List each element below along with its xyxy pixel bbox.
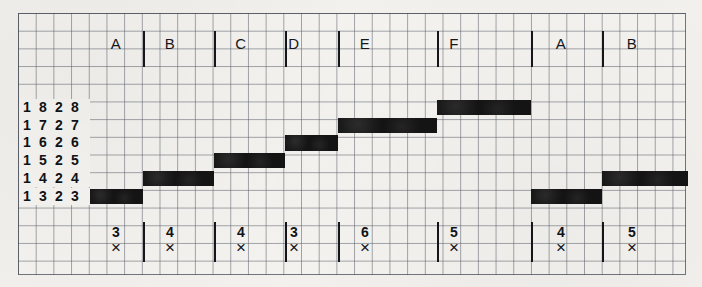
header-letter-3: D: [279, 35, 309, 52]
footer-cell-2: 4×: [226, 225, 256, 256]
header-divider-2: [285, 31, 287, 67]
footer-divider-1: [214, 222, 216, 262]
row-label-digit: 1: [19, 117, 35, 135]
row-label-digit: 5: [35, 152, 51, 170]
footer-x-mark-icon: ×: [101, 240, 131, 256]
row-label-3: 1525: [19, 152, 90, 170]
row-label-digit: 1: [19, 152, 35, 170]
row-label-digit: 1: [19, 134, 35, 152]
row-label-digit: 2: [51, 134, 67, 152]
footer-x-mark-icon: ×: [439, 240, 469, 256]
footer-x-mark-icon: ×: [279, 240, 309, 256]
header-divider-4: [437, 31, 439, 67]
row-label-digit: 6: [35, 134, 51, 152]
bar-B-4: [143, 171, 214, 186]
header-letter-2: C: [226, 35, 256, 52]
row-label-digit: 4: [67, 170, 83, 188]
graph-paper-chart: ABCDEFAB 182817271626152514241323 3×4×4×…: [0, 0, 702, 287]
row-label-digit: 5: [67, 152, 83, 170]
bar-E-7: [338, 118, 437, 133]
header-divider-0: [143, 31, 145, 67]
row-label-digit: 7: [35, 117, 51, 135]
header-divider-3: [338, 31, 340, 67]
footer-cell-3: 3×: [279, 225, 309, 256]
header-divider-5: [531, 31, 533, 67]
footer-x-mark-icon: ×: [546, 240, 576, 256]
header-divider-6: [602, 31, 604, 67]
row-label-digit: 2: [51, 170, 67, 188]
header-letter-0: A: [101, 35, 131, 52]
row-label-digit: 1: [19, 188, 35, 206]
footer-divider-5: [531, 222, 533, 262]
row-label-5: 1323: [19, 188, 90, 206]
bar-A-3: [531, 189, 602, 204]
row-label-0: 1828: [19, 99, 90, 117]
footer-divider-6: [602, 222, 604, 262]
row-label-4: 1424: [19, 170, 90, 188]
footer-x-mark-icon: ×: [617, 240, 647, 256]
row-label-digit: 1: [19, 170, 35, 188]
footer-cell-0: 3×: [101, 225, 131, 256]
row-label-digit: 2: [51, 152, 67, 170]
footer-x-mark-icon: ×: [155, 240, 185, 256]
row-label-digit: 4: [35, 170, 51, 188]
footer-x-mark-icon: ×: [350, 240, 380, 256]
row-label-digit: 3: [67, 188, 83, 206]
row-label-1: 1727: [19, 117, 90, 135]
row-label-digit: 3: [35, 188, 51, 206]
footer-divider-4: [437, 222, 439, 262]
header-letter-4: E: [350, 35, 380, 52]
row-label-digit: 1: [19, 99, 35, 117]
footer-x-mark-icon: ×: [226, 240, 256, 256]
header-letter-1: B: [155, 35, 185, 52]
header-letter-7: B: [617, 35, 647, 52]
footer-divider-3: [338, 222, 340, 262]
footer-cell-5: 5×: [439, 225, 469, 256]
row-label-digit: 2: [51, 99, 67, 117]
footer-cell-7: 5×: [617, 225, 647, 256]
footer-cell-6: 4×: [546, 225, 576, 256]
footer-divider-2: [285, 222, 287, 262]
footer-cell-4: 6×: [350, 225, 380, 256]
footer-divider-0: [143, 222, 145, 262]
header-letter-6: A: [546, 35, 576, 52]
row-label-digit: 7: [67, 117, 83, 135]
bar-F-8: [437, 100, 531, 115]
row-label-digit: 6: [67, 134, 83, 152]
row-label-2: 1626: [19, 134, 90, 152]
row-label-digit: 8: [67, 99, 83, 117]
row-label-digit: 8: [35, 99, 51, 117]
footer-cell-1: 4×: [155, 225, 185, 256]
header-divider-1: [214, 31, 216, 67]
bar-C-5: [214, 153, 285, 168]
bar-D-6: [285, 135, 338, 150]
bar-B-4: [602, 171, 688, 186]
row-label-digit: 2: [51, 188, 67, 206]
row-label-digit: 2: [51, 117, 67, 135]
header-letter-5: F: [439, 35, 469, 52]
bar-A-3: [90, 189, 143, 204]
